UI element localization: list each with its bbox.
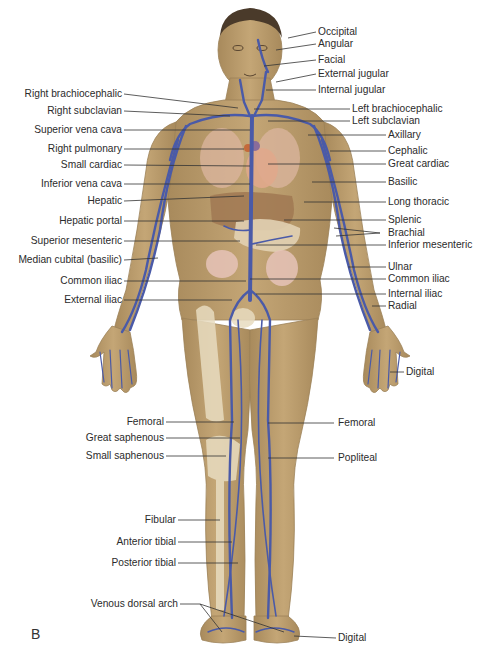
label-external-iliac: External iliac bbox=[64, 294, 122, 306]
label-occipital: Occipital bbox=[318, 26, 357, 38]
label-superior-vena-cava: Superior vena cava bbox=[34, 124, 122, 136]
label-inferior-mesenteric: Inferior mesenteric bbox=[388, 239, 472, 251]
label-hepatic: Hepatic bbox=[87, 195, 122, 207]
label-axillary: Axillary bbox=[388, 129, 421, 141]
label-radial: Radial bbox=[388, 300, 417, 312]
label-common-iliac-left: Common iliac bbox=[60, 275, 122, 287]
label-digital-hand: Digital bbox=[406, 366, 434, 378]
label-popliteal: Popliteal bbox=[338, 452, 377, 464]
label-splenic: Splenic bbox=[388, 214, 421, 226]
label-internal-jugular: Internal jugular bbox=[318, 84, 385, 96]
label-anterior-tibial: Anterior tibial bbox=[117, 536, 176, 548]
label-angular: Angular bbox=[318, 38, 353, 50]
label-right-brachiocephalic: Right brachiocephalic bbox=[25, 88, 122, 100]
label-great-saphenous: Great saphenous bbox=[86, 432, 164, 444]
label-small-cardiac: Small cardiac bbox=[61, 159, 122, 171]
label-cephalic: Cephalic bbox=[388, 145, 428, 157]
label-small-saphenous: Small saphenous bbox=[86, 450, 164, 462]
label-fibular: Fibular bbox=[145, 514, 176, 526]
label-venous-dorsal-arch: Venous dorsal arch bbox=[91, 598, 178, 610]
label-right-pulmonary: Right pulmonary bbox=[48, 143, 122, 155]
label-left-brachiocephalic: Left brachiocephalic bbox=[352, 103, 443, 115]
label-superior-mesenteric: Superior mesenteric bbox=[31, 235, 122, 247]
label-femoral-right: Femoral bbox=[338, 417, 375, 429]
label-femoral-left: Femoral bbox=[127, 416, 164, 428]
label-right-subclavian: Right subclavian bbox=[47, 105, 122, 117]
label-common-iliac-right: Common iliac bbox=[388, 273, 450, 285]
panel-letter: B bbox=[31, 626, 40, 642]
label-median-cubital: Median cubital (basilic) bbox=[18, 254, 122, 266]
label-posterior-tibial: Posterior tibial bbox=[111, 557, 176, 569]
label-left-subclavian: Left subclavian bbox=[352, 115, 420, 127]
label-ulnar: Ulnar bbox=[388, 261, 412, 273]
label-external-jugular: External jugular bbox=[318, 68, 389, 80]
label-facial: Facial bbox=[318, 54, 345, 66]
label-digital-foot: Digital bbox=[338, 632, 366, 644]
label-hepatic-portal: Hepatic portal bbox=[59, 215, 122, 227]
label-internal-iliac: Internal iliac bbox=[388, 288, 442, 300]
label-great-cardiac: Great cardiac bbox=[388, 158, 449, 170]
label-brachial: Brachial bbox=[388, 227, 425, 239]
label-basilic: Basilic bbox=[388, 176, 417, 188]
label-inferior-vena-cava: Inferior vena cava bbox=[41, 178, 122, 190]
label-long-thoracic: Long thoracic bbox=[388, 196, 449, 208]
